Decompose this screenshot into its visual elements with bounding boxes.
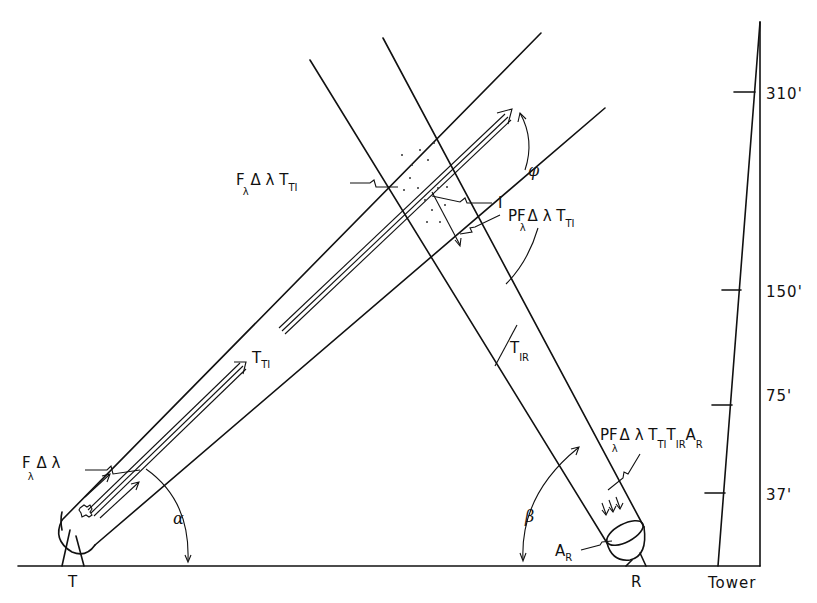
tower-height-37: 37': [766, 486, 792, 504]
label-scattered-flux: PFλΔ λ TTI: [508, 207, 575, 233]
label-intersection: I: [498, 194, 502, 212]
beam-arrow-upper: [279, 109, 512, 334]
scattering-geometry-diagram: 310' 150' 75' 37' Tower: [0, 0, 817, 603]
label-alpha: α: [173, 509, 184, 528]
receiver-beam: [310, 38, 647, 566]
label-phi: φ: [528, 161, 540, 180]
label-receiver: R: [631, 573, 641, 591]
tower: 310' 150' 75' 37' Tower: [705, 22, 803, 592]
tower-height-150: 150': [766, 283, 803, 301]
lamp-icon: [79, 505, 92, 517]
label-transmittance-TI: TTI: [251, 349, 270, 370]
label-received-flux: PFλΔ λ TTITIRAR: [600, 426, 703, 454]
label-receiver-area: AR: [555, 542, 572, 563]
tower-height-310: 310': [766, 85, 803, 103]
leader-intersection: [432, 196, 492, 203]
scattering-volume: [401, 142, 448, 223]
leader-scattered: [460, 215, 500, 234]
tower-height-75: 75': [766, 387, 792, 405]
leader-received: [608, 454, 640, 490]
beam-arrow-lower: [88, 362, 246, 516]
beta-arc: [523, 448, 578, 560]
label-flux-at-intersection: FλΔ λ TTI: [236, 171, 297, 197]
label-transmitter: T: [67, 573, 78, 591]
scattered-ray: [432, 192, 460, 245]
tower-label: Tower: [707, 574, 756, 592]
label-transmittance-IR: TIR: [509, 339, 529, 363]
incoming-arrows: [602, 497, 623, 515]
label-beta: β: [524, 507, 534, 526]
label-source-flux: FλΔ λ: [22, 454, 61, 482]
receiver-dish: [603, 516, 647, 551]
